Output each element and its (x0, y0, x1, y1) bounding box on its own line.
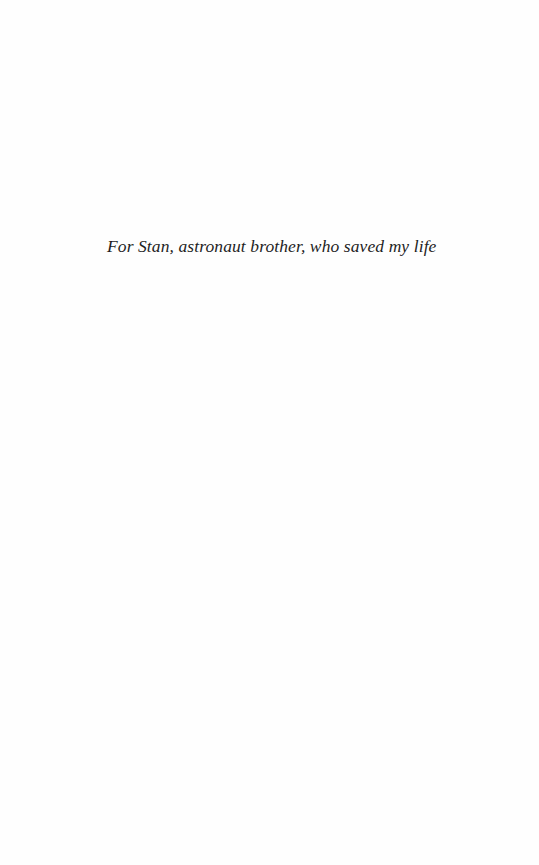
dedication-page: For Stan, astronaut brother, who saved m… (0, 0, 539, 865)
dedication-text: For Stan, astronaut brother, who saved m… (107, 236, 436, 257)
